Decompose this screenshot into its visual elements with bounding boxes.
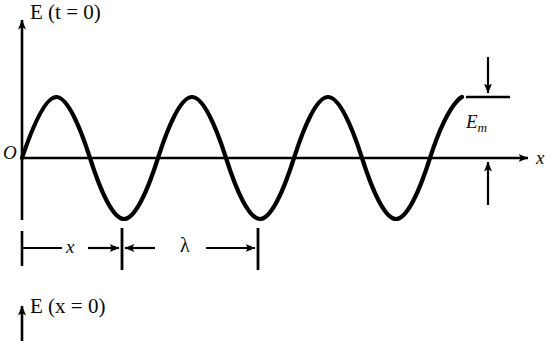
bottom-axis-label: E (x = 0) (30, 296, 105, 317)
wave-diagram (0, 0, 553, 341)
amplitude-label-subscript: m (478, 120, 488, 135)
amplitude-label: Em (466, 112, 487, 134)
dimension-lambda-label: λ (180, 235, 190, 255)
x-axis-label: x (536, 148, 544, 167)
dimension-x-label: x (66, 237, 74, 256)
amplitude-label-base: E (466, 111, 478, 132)
top-axis-label: E (t = 0) (30, 2, 101, 23)
origin-label: O (3, 143, 17, 162)
